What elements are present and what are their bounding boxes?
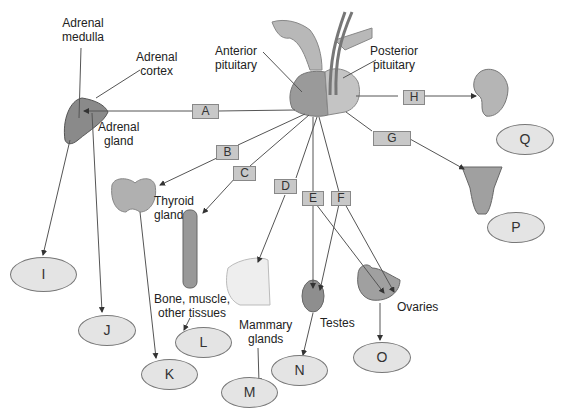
- effect-oval-n: N: [271, 355, 328, 386]
- hormone-box-f: F: [331, 191, 351, 206]
- effect-oval-i: I: [10, 257, 77, 292]
- effect-oval-j: J: [78, 315, 136, 346]
- label-adrenal-gland: Adrenal gland: [98, 120, 139, 148]
- thyroid-illustration: [112, 179, 156, 212]
- label-bone-muscle: Bone, muscle, other tissues: [154, 292, 230, 320]
- label-adrenal-cortex: Adrenal cortex: [136, 50, 177, 78]
- hormone-box-h: H: [403, 90, 425, 105]
- hormone-box-c: C: [233, 166, 256, 181]
- effect-oval-m: M: [221, 377, 278, 408]
- label-adrenal-medulla: Adrenal medulla: [62, 16, 104, 44]
- effect-oval-p: P: [487, 212, 545, 243]
- effect-oval-l: L: [175, 327, 232, 358]
- hormone-box-g: G: [373, 131, 411, 146]
- kidney-illustration: [474, 69, 508, 116]
- hormone-box-b: B: [216, 145, 239, 160]
- hormone-box-d: D: [274, 179, 297, 194]
- label-posterior-pituitary: Posterior pituitary: [370, 44, 418, 72]
- hormone-box-e: E: [302, 191, 324, 206]
- label-thyroid-gland: Thyroid gland: [154, 194, 194, 222]
- pituitary-gland-illustration: [272, 12, 372, 116]
- uterus-illustration: [462, 167, 502, 214]
- effect-oval-o: O: [353, 342, 411, 373]
- label-mammary-glands: Mammary glands: [239, 318, 292, 346]
- ovary-illustration: [358, 265, 400, 300]
- label-ovaries: Ovaries: [397, 300, 438, 314]
- label-testes: Testes: [320, 316, 355, 330]
- connector-lines: [0, 0, 562, 419]
- effect-oval-q: Q: [496, 124, 554, 155]
- hormone-box-a: A: [192, 104, 219, 119]
- breast-illustration: [227, 258, 271, 305]
- effect-oval-k: K: [141, 359, 198, 390]
- label-anterior-pituitary: Anterior pituitary: [215, 44, 257, 72]
